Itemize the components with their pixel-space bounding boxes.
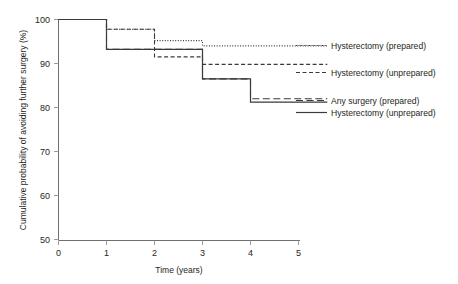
y-tick-label: 100 bbox=[35, 15, 50, 25]
chart-canvas: 100 90 80 70 60 50 0 1 2 3 4 5 Time (yea… bbox=[0, 0, 458, 284]
series-group bbox=[59, 20, 328, 103]
y-axis-title: Cumulative probability of avoiding furth… bbox=[18, 30, 28, 230]
y-tick-label: 90 bbox=[40, 59, 50, 69]
legend-label-2: Any surgery (prepared) bbox=[331, 96, 420, 106]
y-tick-label: 80 bbox=[40, 103, 50, 113]
y-tick-label: 50 bbox=[40, 235, 50, 245]
x-tick-label: 1 bbox=[104, 248, 109, 258]
y-tick-label: 70 bbox=[40, 147, 50, 157]
x-tick-label: 5 bbox=[296, 248, 301, 258]
chart-legend: Hysterectomy (prepared)Hysterectomy (unp… bbox=[296, 41, 436, 118]
y-tick-label: 60 bbox=[40, 191, 50, 201]
series-line-2 bbox=[59, 20, 328, 99]
legend-label-0: Hysterectomy (prepared) bbox=[331, 41, 426, 51]
x-tick-label: 0 bbox=[56, 248, 61, 258]
x-tick-label: 2 bbox=[152, 248, 157, 258]
series-line-3 bbox=[59, 20, 328, 103]
legend-label-3: Hysterectomy (unprepared) bbox=[331, 108, 436, 118]
x-axis-tick-labels: 0 1 2 3 4 5 bbox=[56, 248, 301, 258]
series-line-1 bbox=[59, 20, 328, 65]
series-line-0 bbox=[59, 20, 328, 46]
x-tick-label: 3 bbox=[200, 248, 205, 258]
x-axis-title: Time (years) bbox=[155, 265, 203, 275]
x-axis-ticks bbox=[59, 241, 299, 246]
y-axis-ticks bbox=[54, 20, 59, 240]
survival-chart: 100 90 80 70 60 50 0 1 2 3 4 5 Time (yea… bbox=[0, 0, 458, 284]
legend-label-1: Hysterectomy (unprepared) bbox=[331, 68, 436, 78]
x-tick-label: 4 bbox=[248, 248, 253, 258]
y-axis-tick-labels: 100 90 80 70 60 50 bbox=[35, 15, 50, 245]
